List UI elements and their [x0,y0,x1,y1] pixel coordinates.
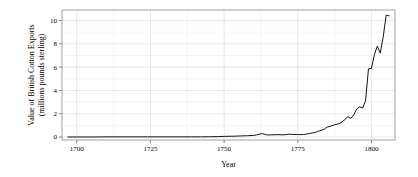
x-tick-label: 1750 [217,145,232,153]
y-tick-label: 0 [54,133,58,141]
y-tick-label: 6 [54,64,58,72]
x-tick-label: 1775 [291,145,306,153]
x-tick-label: 1725 [143,145,158,153]
y-tick-label: 8 [54,40,58,48]
x-axis-title: Year [221,160,236,169]
chart-figure: 0246810 17001725175017751800 Year Value … [0,0,418,177]
cotton-exports-line-chart: 0246810 17001725175017751800 Year Value … [0,0,418,177]
y-axis-title-line-2: (millions pounds sterling) [37,33,46,116]
y-tick-label: 4 [54,87,58,95]
y-tick-label: 10 [50,17,58,25]
x-tick-label: 1700 [70,145,85,153]
y-tick-label: 2 [54,110,58,118]
x-tick-label: 1800 [364,145,379,153]
y-axis-title-line-1: Value of British Cotton Exports [27,24,36,125]
plot-area-background [62,10,395,140]
